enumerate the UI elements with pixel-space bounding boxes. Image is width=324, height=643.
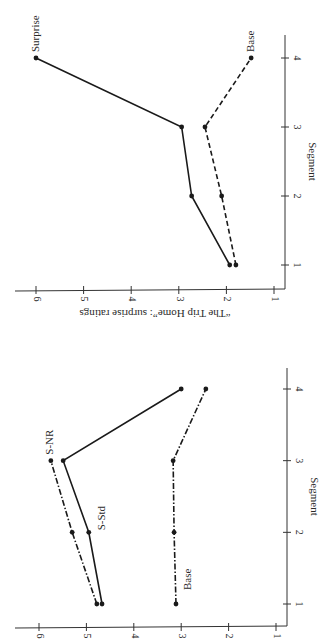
value-tick-label: 5 (79, 297, 90, 302)
data-point (86, 530, 91, 535)
value-axis-title: “The Trip Home”: surprise ratings (80, 308, 231, 320)
data-point (100, 602, 105, 607)
segment-tick-label: 2 (292, 194, 303, 199)
series-label: Base (244, 31, 256, 52)
data-point (219, 194, 224, 199)
series-label: Surprise (29, 15, 41, 52)
value-tick-label: 3 (175, 297, 186, 302)
segment-tick-label: 1 (294, 602, 305, 607)
segment-tick-label: 4 (292, 56, 303, 61)
value-tick-label: 4 (130, 634, 141, 639)
data-point (171, 458, 176, 463)
series-label: S-NR (43, 429, 55, 455)
data-point (189, 194, 194, 199)
value-tick-label: 4 (127, 297, 138, 302)
data-point (34, 56, 39, 61)
data-point (203, 387, 208, 392)
value-tick-label: 5 (82, 634, 93, 639)
data-point (174, 602, 179, 607)
value-tick-label: 3 (177, 634, 188, 639)
segment-tick-label: 3 (294, 458, 305, 463)
series-line-surprise (36, 58, 230, 265)
series-label: S-Std (95, 505, 107, 530)
series-line-s-std (63, 389, 181, 604)
value-axis (15, 289, 285, 291)
data-point (48, 458, 53, 463)
data-point (203, 125, 208, 130)
chart-panel-1: 1234561234Segment“The Trip Home”: surpri… (15, 15, 319, 320)
segment-tick-label: 2 (294, 530, 305, 535)
data-point (227, 263, 232, 268)
value-tick-label: 1 (270, 297, 281, 302)
segment-axis-title: Segment (307, 142, 319, 181)
data-point (234, 263, 239, 268)
data-point (70, 530, 75, 535)
data-point (94, 602, 99, 607)
value-tick-label: 2 (222, 297, 233, 302)
data-point (61, 458, 66, 463)
series-label: Base (181, 569, 193, 591)
value-tick-label: 6 (32, 297, 43, 302)
chart-panel-2: 1234561234SegmentS-StdS-NRBase (15, 368, 321, 639)
segment-tick-label: 1 (292, 263, 303, 268)
value-axis (15, 626, 287, 628)
figure: 1234561234Segment“The Trip Home”: surpri… (0, 0, 324, 643)
data-point (179, 387, 184, 392)
value-tick-label: 2 (224, 634, 235, 639)
segment-tick-label: 3 (292, 125, 303, 130)
segment-axis-title: Segment (309, 477, 321, 516)
value-tick-label: 6 (35, 634, 46, 639)
data-point (249, 56, 254, 61)
data-point (179, 125, 184, 130)
segment-tick-label: 4 (294, 387, 305, 392)
data-point (172, 530, 177, 535)
value-tick-label: 1 (272, 634, 283, 639)
